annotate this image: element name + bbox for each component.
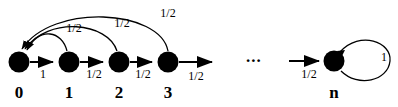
forward-edge-label-prev-to-n: 1/2 [299,68,319,80]
state-node-2 [109,52,130,73]
state-node-1 [59,52,80,73]
state-label-3: 3 [158,84,178,101]
ellipsis: ... [246,48,262,65]
state-diagram-figure: 1/2 1/2 1/2 1 1/2 1/2 1/2 1/2 1 ... 0 1 … [0,0,398,107]
state-label-2: 2 [109,84,129,101]
forward-edge-label-3-to-next: 1/2 [186,70,206,82]
state-label-n: n [324,84,344,101]
self-loop-label: 1 [378,51,390,63]
state-label-1: 1 [59,84,79,101]
state-node-0 [9,52,30,73]
state-label-0: 0 [9,84,29,101]
forward-edge-label-0-to-1: 1 [35,68,51,80]
back-edge-label-1-to-0: 1/2 [64,22,84,34]
back-edge-label-3-to-0: 1/2 [158,7,178,19]
back-edge-label-2-to-0: 1/2 [112,17,132,29]
state-node-3 [158,52,179,73]
state-node-n [324,51,345,72]
forward-edge-label-2-to-3: 1/2 [133,68,153,80]
forward-edge-label-1-to-2: 1/2 [84,68,104,80]
